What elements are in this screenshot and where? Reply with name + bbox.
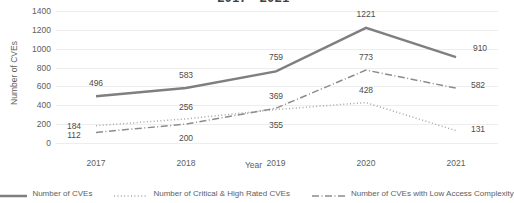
legend-line-swatch (0, 191, 27, 195)
gridline (56, 143, 498, 144)
y-axis-tick-labels: 0200400600800100012001400 (0, 11, 56, 143)
data-label: 184 (67, 121, 81, 131)
data-label: 496 (89, 78, 103, 88)
y-axis-tick-label: 1400 (32, 6, 51, 16)
legend-label: Number of Critical & High Rated CVEs (153, 189, 290, 198)
y-axis-tick-label: 1000 (32, 44, 51, 54)
x-axis-tick-label: 2017 (87, 158, 106, 168)
chart-legend: Number of CVEsNumber of Critical & High … (0, 185, 507, 201)
legend-label: Number of CVEs (32, 189, 92, 198)
data-label: 131 (471, 124, 485, 134)
chart-title: 2017 - 2021 (0, 0, 507, 5)
y-axis-tick-label: 800 (37, 63, 51, 73)
data-label: 428 (359, 85, 373, 95)
x-axis-tick-label: 2021 (447, 158, 466, 168)
data-label: 582 (471, 80, 485, 90)
legend-line-swatch (312, 191, 346, 195)
data-label: 200 (179, 133, 193, 143)
legend-item[interactable]: Number of CVEs (0, 189, 92, 198)
data-label: 773 (359, 52, 373, 62)
y-axis-tick-label: 600 (37, 81, 51, 91)
data-label: 355 (269, 120, 283, 130)
plot-area: 4965837591221910184256355428131112200369… (56, 11, 498, 143)
legend-item[interactable]: Number of Critical & High Rated CVEs (114, 189, 290, 198)
data-label: 256 (179, 102, 193, 112)
data-label: 1221 (357, 9, 376, 19)
x-axis-tick-label: 2019 (267, 158, 286, 168)
data-label: 369 (269, 91, 283, 101)
x-axis-title: Year (0, 160, 507, 170)
y-axis-tick-label: 400 (37, 100, 51, 110)
legend-item[interactable]: Number of CVEs with Low Access Complexit… (312, 189, 514, 198)
x-axis-tick-label: 2018 (177, 158, 196, 168)
y-axis-tick-label: 200 (37, 119, 51, 129)
legend-label: Number of CVEs with Low Access Complexit… (351, 189, 514, 198)
y-axis-tick-label: 0 (46, 138, 51, 148)
x-axis-tick-label: 2020 (357, 158, 376, 168)
data-label: 910 (473, 43, 487, 53)
data-label: 112 (67, 130, 81, 140)
data-label: 583 (179, 70, 193, 80)
legend-line-swatch (114, 191, 148, 195)
y-axis-tick-label: 1200 (32, 25, 51, 35)
data-label: 759 (269, 52, 283, 62)
